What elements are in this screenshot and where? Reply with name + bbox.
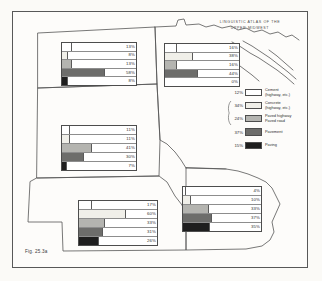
bar-fill: [62, 126, 70, 134]
bar-fill: [62, 43, 72, 51]
bar-fill: [183, 187, 186, 195]
bar-row: 33%: [79, 219, 157, 228]
bar-row: 16%: [165, 61, 239, 70]
bar-fill: [165, 70, 198, 78]
bar-value-label: 10%: [251, 198, 260, 202]
bar-fill: [62, 69, 105, 77]
legend-item-pavement: 37% Pavement: [228, 128, 312, 137]
bar-fill: [62, 52, 68, 60]
bar-fill: [183, 223, 210, 231]
state-chart-iowa: 4% 10% 33% 37% 35%: [182, 186, 262, 232]
legend-item-concrete: 34% Concrete (highway, etc.): [228, 101, 312, 110]
bar-value-label: 44%: [229, 71, 238, 75]
state-chart-north-dakota: 13% 8% 13% 58% 8%: [61, 42, 137, 86]
bar-fill: [79, 237, 99, 245]
legend-pct: 12%: [228, 90, 245, 95]
bar-fill: [62, 162, 67, 170]
bar-value-label: 8%: [128, 79, 134, 83]
bar-value-label: 33%: [147, 221, 156, 225]
bar-value-label: 35%: [251, 225, 260, 229]
bar-value-label: 33%: [251, 207, 260, 211]
legend-swatch: [245, 128, 262, 135]
bar-value-label: 41%: [126, 146, 135, 150]
bar-value-label: 11%: [126, 128, 135, 132]
bar-fill: [79, 219, 105, 227]
legend-label: Paved highway Paved road: [265, 114, 291, 123]
bar-fill: [62, 135, 70, 143]
bar-fill: [62, 77, 68, 85]
legend-item-cement: 12% Cement (highway, etc.): [228, 88, 312, 97]
bar-fill: [79, 210, 126, 218]
legend-swatch: [245, 102, 262, 109]
bar-value-label: 17%: [147, 203, 156, 207]
bar-value-label: 60%: [147, 212, 156, 216]
bar-row: 11%: [62, 126, 136, 135]
bar-row: 37%: [183, 214, 261, 223]
bar-value-label: 4%: [253, 189, 259, 193]
bar-row: 16%: [165, 44, 239, 53]
bar-row: 8%: [62, 52, 136, 61]
bar-fill: [79, 228, 103, 236]
legend-swatch: [245, 115, 262, 122]
legend-label: Paving: [265, 143, 277, 148]
bar-row: 60%: [79, 210, 157, 219]
bar-value-label: 11%: [126, 137, 135, 141]
legend-label: Pavement: [265, 130, 283, 135]
bar-row: 11%: [62, 135, 136, 144]
legend-label: Concrete (highway, etc.): [265, 101, 290, 110]
bar-value-label: 26%: [147, 239, 156, 243]
legend-item-paved-highway: 24% Paved highway Paved road: [228, 114, 312, 123]
bar-value-label: 38%: [229, 54, 238, 58]
bar-fill: [62, 144, 92, 152]
bar-row: 8%: [62, 77, 136, 85]
bar-row: 10%: [183, 196, 261, 205]
legend-swatch: [245, 142, 262, 149]
bar-row: 7%: [62, 162, 136, 170]
atlas-title: LINGUISTIC ATLAS OF THE UPPER MIDWEST: [204, 20, 296, 31]
bar-row: 44%: [165, 70, 239, 79]
bar-value-label: 16%: [229, 46, 238, 50]
bar-value-label: 31%: [147, 230, 156, 234]
bar-fill: [183, 205, 209, 213]
legend-pct: 37%: [228, 130, 245, 135]
bar-fill: [165, 44, 177, 52]
bar-value-label: 30%: [126, 155, 135, 159]
bar-value-label: 58%: [126, 70, 135, 74]
bar-value-label: 37%: [251, 216, 260, 220]
figure-caption: Fig. 25.3a: [25, 249, 47, 254]
bar-row: 33%: [183, 205, 261, 214]
bar-value-label: 13%: [126, 62, 135, 66]
bar-row: 13%: [62, 43, 136, 52]
state-chart-nebraska: 17% 60% 33% 31% 26%: [78, 200, 158, 246]
bar-value-label: 0%: [231, 80, 237, 84]
bar-fill: [165, 53, 193, 61]
bar-fill: [79, 201, 92, 209]
bar-value-label: 13%: [126, 45, 135, 49]
bar-fill: [183, 196, 191, 204]
state-chart-minnesota: 16% 38% 16% 44% 0%: [164, 43, 240, 87]
bar-fill: [183, 214, 212, 222]
bar-row: 58%: [62, 69, 136, 78]
legend-item-paving: 15% Paving: [228, 141, 312, 150]
bar-row: 0%: [165, 78, 239, 86]
bar-value-label: 7%: [128, 164, 134, 168]
bar-row: 4%: [183, 187, 261, 196]
bar-row: 41%: [62, 144, 136, 153]
legend: 12% Cement (highway, etc.) 34% Concrete …: [228, 88, 312, 154]
bar-row: 13%: [62, 60, 136, 69]
bar-row: 26%: [79, 237, 157, 245]
bar-row: 38%: [165, 53, 239, 62]
legend-label: Cement (highway, etc.): [265, 88, 290, 97]
bar-row: 31%: [79, 228, 157, 237]
state-chart-south-dakota: 11% 11% 41% 30% 7%: [61, 125, 137, 171]
bar-value-label: 16%: [229, 63, 238, 67]
bar-fill: [62, 60, 72, 68]
bar-row: 17%: [79, 201, 157, 210]
legend-pct: 34%: [228, 103, 245, 108]
bar-value-label: 8%: [128, 53, 134, 57]
legend-swatch: [245, 89, 262, 96]
legend-pct: 15%: [228, 143, 245, 148]
bar-fill: [62, 153, 84, 161]
bar-row: 35%: [183, 223, 261, 231]
figure-plate: LINGUISTIC ATLAS OF THE UPPER MIDWEST Fi…: [0, 0, 322, 281]
